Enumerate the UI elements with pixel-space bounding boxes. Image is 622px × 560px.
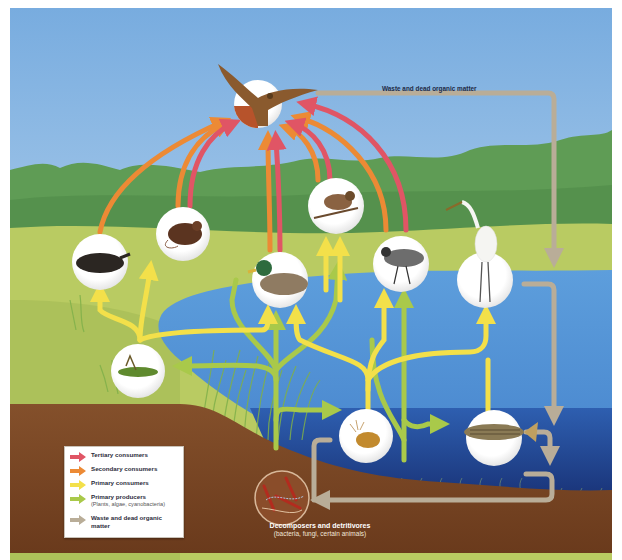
decomposers <box>255 471 309 525</box>
gray-arrow-icon <box>70 515 86 525</box>
decomposers-caption: Decomposers and detritivores (bacteria, … <box>230 521 410 538</box>
legend-item-secondary: Secondary consumers <box>70 465 178 479</box>
legend-item-producers: Primary producers (Plants, algae, cyanob… <box>70 493 178 514</box>
green-arrow-icon <box>70 494 86 504</box>
grasshopper <box>111 344 165 398</box>
legend-item-waste: Waste and dead organic matter <box>70 514 178 535</box>
waste-organic-matter-label: Waste and dead organic matter <box>382 85 477 92</box>
legend-label: Waste and dead organic matter <box>91 514 178 529</box>
legend-item-tertiary: Tertiary consumers <box>70 451 178 465</box>
legend-item-primary: Primary consumers <box>70 479 178 493</box>
legend-label: Secondary consumers <box>91 465 157 473</box>
mouse <box>156 207 210 261</box>
decomposers-label: Decomposers and detritivores <box>230 521 410 530</box>
legend-sublabel: (Plants, algae, cyanobacteria) <box>91 501 165 509</box>
legend-label: Tertiary consumers <box>91 451 148 459</box>
plover <box>373 236 429 292</box>
zooplankton <box>339 409 393 463</box>
legend: Tertiary consumers Secondary consumers P… <box>64 446 184 538</box>
red-arrow-icon <box>70 452 86 462</box>
decomposers-sublabel: (bacteria, fungi, certain animals) <box>230 530 410 538</box>
legend-label: Primary consumers <box>91 479 149 487</box>
sparrow <box>308 178 364 234</box>
orange-arrow-icon <box>70 466 86 476</box>
legend-label: Primary producers <box>91 493 146 500</box>
yellow-arrow-icon <box>70 480 86 490</box>
